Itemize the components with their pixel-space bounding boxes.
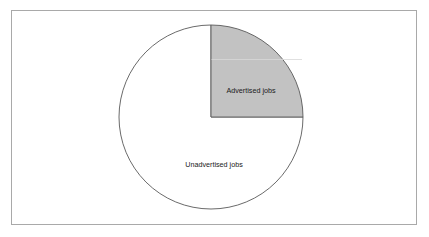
pie-slice-advertised[interactable] [211, 25, 303, 117]
figure-root: Advertised jobs Unadvertised jobs [0, 0, 429, 237]
slice-label-advertised: Advertised jobs [226, 86, 276, 95]
pie-chart: Advertised jobs Unadvertised jobs [0, 0, 429, 237]
slice-label-unadvertised: Unadvertised jobs [185, 160, 243, 169]
